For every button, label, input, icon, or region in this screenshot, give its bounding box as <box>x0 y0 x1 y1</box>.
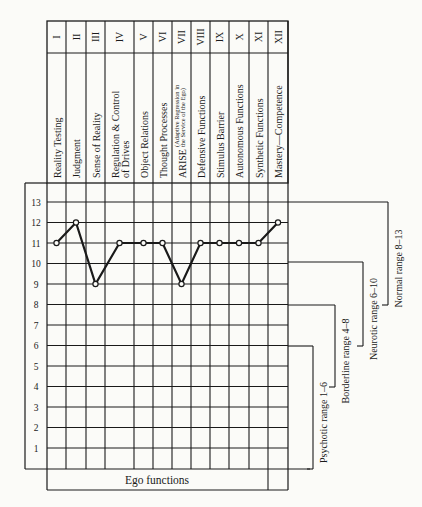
y-tick-label: 4 <box>34 382 39 392</box>
data-point-marker <box>217 240 222 245</box>
y-tick-label: 13 <box>31 198 41 208</box>
x-axis-label: Ego functions <box>125 474 190 487</box>
x-axis-label-box: Ego functions <box>47 469 288 490</box>
column-label: Synthetic Functions <box>254 98 265 178</box>
range-label: Psychotic range 1–6 <box>318 382 329 463</box>
range-label: Neurotic range 6–10 <box>368 278 379 360</box>
y-tick-label: 11 <box>31 239 40 249</box>
y-tick-label: 8 <box>34 300 39 310</box>
column-label: Judgment <box>71 139 82 178</box>
range-label: Normal range 8–13 <box>393 230 404 308</box>
profile-line <box>54 220 281 287</box>
column-numeral: XI <box>253 32 264 43</box>
column-label: Thought Processes <box>158 103 169 178</box>
y-tick-label: 6 <box>34 341 39 351</box>
column-numeral: I <box>51 35 62 38</box>
data-point-marker <box>73 220 78 225</box>
column-numeral: IV <box>114 31 125 42</box>
data-point-marker <box>54 240 59 245</box>
data-point-marker <box>93 281 98 286</box>
data-point-marker <box>236 240 241 245</box>
y-tick-label: 2 <box>34 423 39 433</box>
column-numeral: IX <box>214 31 225 42</box>
column-label: Mastery—Competence <box>273 85 284 178</box>
data-point-marker <box>179 281 184 286</box>
column-label: Defensive Functions <box>196 95 207 178</box>
column-sublabel: the Service of the Ego) <box>179 88 187 147</box>
column-label: ARISE <box>177 149 188 178</box>
range-label: Borderline range 4–8 <box>340 319 351 404</box>
column-label: Sense of Reality <box>91 112 102 178</box>
y-tick-label: 1 <box>34 444 39 454</box>
data-point-marker <box>198 240 203 245</box>
column-numeral: III <box>90 32 101 42</box>
y-tick-label: 12 <box>31 218 41 228</box>
column-numeral: VI <box>157 32 168 43</box>
data-point-marker <box>117 240 122 245</box>
y-axis: 12345678910111213 <box>31 198 41 454</box>
column-numeral: X <box>234 33 245 41</box>
y-tick-label: 3 <box>34 403 39 413</box>
column-label: Reality Testing <box>52 118 63 179</box>
y-tick-label: 5 <box>34 362 39 372</box>
column-numeral: VII <box>176 30 187 44</box>
column-label-line2: of Drives <box>120 140 131 178</box>
column-label: Stimulus Barrier <box>215 111 226 178</box>
data-point-marker <box>256 240 261 245</box>
ego-function-chart: IReality TestingIIJudgmentIIISense of Re… <box>0 0 422 507</box>
column-numeral: II <box>71 34 82 41</box>
data-point-marker <box>141 240 146 245</box>
range-brackets: Normal range 8–13Neurotic range 6–10Bord… <box>288 202 404 469</box>
profile-polyline <box>57 223 279 285</box>
column-numeral: VIII <box>195 28 206 45</box>
y-tick-label: 10 <box>31 259 41 269</box>
data-point-marker <box>160 240 165 245</box>
column-headers: IReality TestingIIJudgmentIIISense of Re… <box>47 21 288 183</box>
column-numeral: V <box>138 33 149 41</box>
y-tick-label: 9 <box>34 280 39 290</box>
data-point-marker <box>275 220 280 225</box>
ego-function-profile-figure: IReality TestingIIJudgmentIIISense of Re… <box>0 0 422 507</box>
column-label: Object Relations <box>139 111 150 178</box>
column-label: Autonomous Functions <box>234 84 245 178</box>
column-numeral: XII <box>273 30 284 44</box>
y-tick-label: 7 <box>34 321 39 331</box>
